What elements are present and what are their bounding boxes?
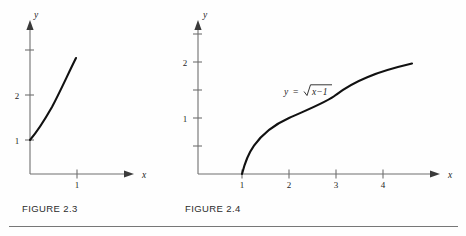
x-tick-label-4: 4 bbox=[381, 180, 386, 190]
x-axis-arrowhead bbox=[124, 170, 134, 177]
y-axis-label: y bbox=[33, 10, 39, 20]
x-tick-label-3: 3 bbox=[334, 180, 339, 190]
equation-equals: = bbox=[293, 87, 298, 97]
y-tick-label-2: 2 bbox=[183, 58, 188, 68]
figure-2-4-caption: FIGURE 2.4 bbox=[185, 203, 241, 214]
y-tick-label-2: 2 bbox=[15, 91, 20, 101]
figure-2-3-plot: 1 2 1 y x bbox=[14, 6, 154, 202]
x-tick-label-2: 2 bbox=[287, 180, 292, 190]
x-axis-arrowhead bbox=[430, 170, 440, 177]
figure-2-4: 1 2 1 2 3 4 y x y = x−1 bbox=[176, 6, 458, 202]
figure-2-4-plot: 1 2 1 2 3 4 y x y = x−1 bbox=[176, 6, 458, 202]
figure-2-3: 1 2 1 y x bbox=[14, 6, 154, 202]
equation-lhs: y bbox=[283, 87, 289, 97]
y-axis-arrowhead bbox=[26, 20, 33, 30]
x-axis-label: x bbox=[447, 170, 453, 180]
y-axis-arrowhead bbox=[194, 20, 201, 30]
sqrt-curve bbox=[242, 64, 412, 174]
x-axis-label: x bbox=[141, 170, 147, 180]
figure-2-3-caption: FIGURE 2.3 bbox=[22, 203, 78, 214]
equation-radicand: x−1 bbox=[311, 87, 327, 97]
x-tick-label-1: 1 bbox=[240, 180, 245, 190]
bottom-divider bbox=[9, 226, 458, 227]
y-axis-label: y bbox=[202, 10, 208, 20]
x-tick-label-1: 1 bbox=[75, 180, 80, 190]
exponential-curve bbox=[30, 58, 76, 140]
y-tick-label-1: 1 bbox=[15, 136, 20, 146]
curve-equation-label: y = x−1 bbox=[283, 85, 332, 97]
y-tick-label-1: 1 bbox=[183, 114, 188, 124]
figure-page: 1 2 1 y x bbox=[0, 0, 466, 236]
